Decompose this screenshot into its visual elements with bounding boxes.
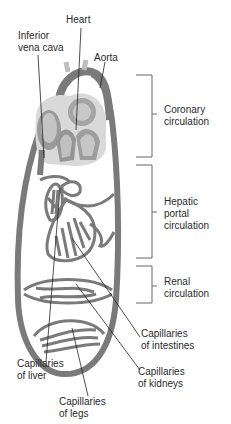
label-capillaries-liver: Capillaries of liver: [17, 358, 64, 382]
liver-capillary-bed: [40, 177, 114, 221]
legs-capillary-bed: [34, 321, 104, 352]
label-aorta: Aorta: [94, 52, 118, 64]
label-heart: Heart: [66, 14, 90, 26]
renal-bracket: [136, 266, 157, 303]
label-inferior-vena-cava: Inferior vena cava: [18, 30, 64, 54]
label-renal-circulation: Renal circulation: [164, 276, 209, 300]
label-capillaries-kidneys: Capillaries of kidneys: [138, 366, 185, 390]
brackets: [136, 75, 157, 303]
label-capillaries-intestines: Capillaries of intestines: [141, 328, 194, 352]
coronary-bracket: [136, 75, 157, 157]
hepatic-bracket: [136, 165, 157, 258]
label-coronary-circulation: Coronary circulation: [164, 104, 209, 128]
kidney-capillary-bed: [24, 280, 112, 304]
circulation-diagram: Heart Inferior vena cava Aorta Coronary …: [0, 0, 231, 424]
label-hepatic-portal-circulation: Hepatic portal circulation: [164, 196, 209, 232]
inferior-vena-cava: [40, 150, 42, 175]
label-capillaries-legs: Capillaries of legs: [59, 396, 106, 420]
